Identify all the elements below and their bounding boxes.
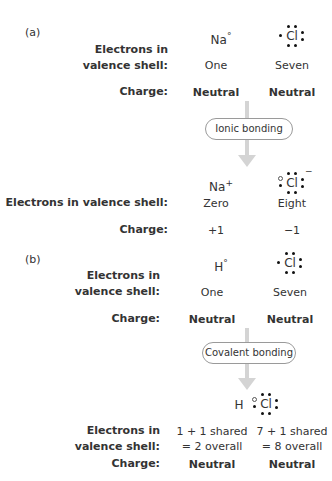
negative-charge: − xyxy=(305,166,313,176)
na-ion-electrons: Zero xyxy=(186,196,246,211)
electrons-row-label: Electrons in valence shell: xyxy=(60,42,168,74)
hydrogen-symbol: H xyxy=(232,398,246,412)
ionic-bonding-label: Ionic bonding xyxy=(205,118,293,140)
h-charge: Neutral xyxy=(182,312,242,327)
charge-row-label: Charge: xyxy=(50,311,160,327)
cl-ion-electrons: Eight xyxy=(262,196,322,211)
product-electrons-row-label: Electrons in valence shell: xyxy=(50,423,160,455)
chlorine-atom-lewis: Cl xyxy=(270,250,310,276)
sodium-atom: Na° xyxy=(196,31,246,47)
cl-electrons: Seven xyxy=(260,285,320,300)
cl-charge: Neutral xyxy=(260,312,320,327)
chlorine-symbol: Cl xyxy=(270,256,310,270)
cl-ion-charge: −1 xyxy=(262,223,322,238)
hydrogen-atom: H° xyxy=(196,258,246,274)
product-charge-row-label: Charge: xyxy=(60,222,168,238)
panel-b-label: (b) xyxy=(25,253,41,266)
covalent-bonding-label: Covalent bonding xyxy=(202,342,296,364)
panel-a-label: (a) xyxy=(25,26,40,39)
h-electrons: One xyxy=(182,285,242,300)
charge-row-label: Charge: xyxy=(60,84,168,100)
cl-charge: Neutral xyxy=(262,85,322,100)
chloride-ion-lewis: Cl − xyxy=(272,170,312,196)
product-charge-row-label: Charge: xyxy=(50,456,160,472)
sodium-ion: Na+ xyxy=(196,178,246,194)
na-charge: Neutral xyxy=(186,85,246,100)
hcl-chlorine-lewis: Cl xyxy=(246,391,286,417)
na-electrons: One xyxy=(186,58,246,73)
electrons-row-label: Electrons in valence shell: xyxy=(50,268,160,300)
h-product-charge: Neutral xyxy=(182,457,242,472)
cl-product-charge: Neutral xyxy=(262,457,322,472)
cl-electrons: Seven xyxy=(262,58,322,73)
chlorine-atom-lewis: Cl xyxy=(272,23,312,49)
cl-shared-electrons: 7 + 1 shared = 8 overall xyxy=(252,424,332,454)
chlorine-symbol: Cl xyxy=(272,29,312,43)
down-arrow-icon xyxy=(238,378,256,390)
down-arrow-icon xyxy=(238,155,256,167)
product-electrons-row-label: Electrons in valence shell: xyxy=(0,195,168,211)
na-ion-charge: +1 xyxy=(186,223,246,238)
h-shared-electrons: 1 + 1 shared = 2 overall xyxy=(172,424,252,454)
